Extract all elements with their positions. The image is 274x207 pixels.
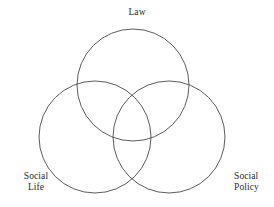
venn-label-social-policy: Social Policy bbox=[234, 171, 274, 192]
venn-circle-law bbox=[77, 29, 189, 141]
venn-circle-social-policy bbox=[113, 81, 225, 193]
venn-label-law: Law bbox=[0, 7, 274, 18]
venn-diagram-figure: Law Social Life Social Policy bbox=[0, 0, 274, 207]
venn-label-social-life: Social Life bbox=[10, 171, 62, 192]
